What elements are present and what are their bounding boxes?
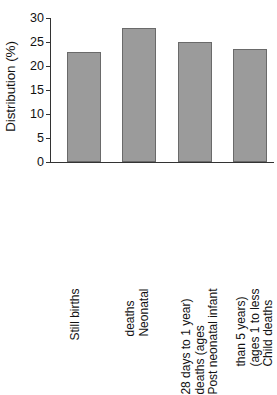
x-category-label-line: Child deaths	[262, 286, 276, 367]
x-category-label-line: Post neonatal infant	[207, 286, 221, 395]
bar	[178, 42, 212, 162]
x-axis-spine	[50, 162, 274, 163]
x-category-label-line: 28 days to 1 year)	[180, 286, 194, 395]
plot-area	[50, 18, 272, 162]
y-tick-label: 5	[18, 132, 44, 144]
y-axis-title-text: Distribution (%)	[3, 41, 18, 132]
y-tick-mark	[46, 138, 51, 139]
x-category-label-line: Still births	[69, 286, 83, 341]
y-axis-title: Distribution (%)	[0, 0, 20, 172]
y-tick-mark	[46, 114, 51, 115]
bar	[233, 49, 267, 162]
x-category-label-line: deaths	[124, 286, 138, 337]
y-tick-label: 10	[18, 108, 44, 120]
bar	[122, 28, 156, 162]
y-tick-mark	[46, 66, 51, 67]
y-tick-mark	[46, 90, 51, 91]
x-axis-category-labels: Still birthsNeonataldeathsPost neonatal …	[50, 166, 277, 289]
y-tick-label: 30	[18, 12, 44, 24]
y-tick-mark	[46, 18, 51, 19]
bars-layer	[50, 18, 272, 162]
y-tick-label: 25	[18, 36, 44, 48]
y-axis-tick-labels: 051015202530	[18, 12, 44, 164]
y-tick-mark	[46, 162, 51, 163]
bar	[67, 52, 101, 162]
x-category-label-line: Neonatal	[138, 286, 152, 337]
y-tick-label: 0	[18, 156, 44, 168]
y-tick-mark	[46, 42, 51, 43]
y-tick-label: 15	[18, 84, 44, 96]
x-category-label-line: deaths (ages	[193, 286, 207, 395]
y-tick-label: 20	[18, 60, 44, 72]
x-category-label-line: than 5 years)	[235, 286, 249, 367]
